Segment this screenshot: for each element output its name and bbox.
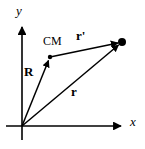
center-of-mass-label: CM: [43, 35, 62, 47]
particle-point: [118, 38, 126, 46]
vector-R-label: R: [24, 65, 33, 78]
center-of-mass-point: [48, 55, 52, 59]
diagram-canvas: [0, 0, 145, 149]
y-axis-label: y: [16, 4, 22, 17]
vector-r-label: r: [71, 85, 77, 98]
vector-r-prime-label: r': [76, 29, 85, 42]
x-axis-label: x: [130, 115, 136, 128]
physics-vector-diagram: y x CM R r r': [0, 0, 145, 149]
